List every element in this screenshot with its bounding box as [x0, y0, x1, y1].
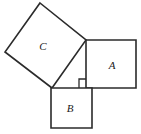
square-c-label: C	[39, 40, 47, 52]
pythagorean-diagram: C A B	[0, 0, 141, 134]
figure-svg: C A B	[0, 0, 141, 134]
square-a-label: A	[108, 59, 116, 71]
square-b-label: B	[67, 102, 74, 114]
